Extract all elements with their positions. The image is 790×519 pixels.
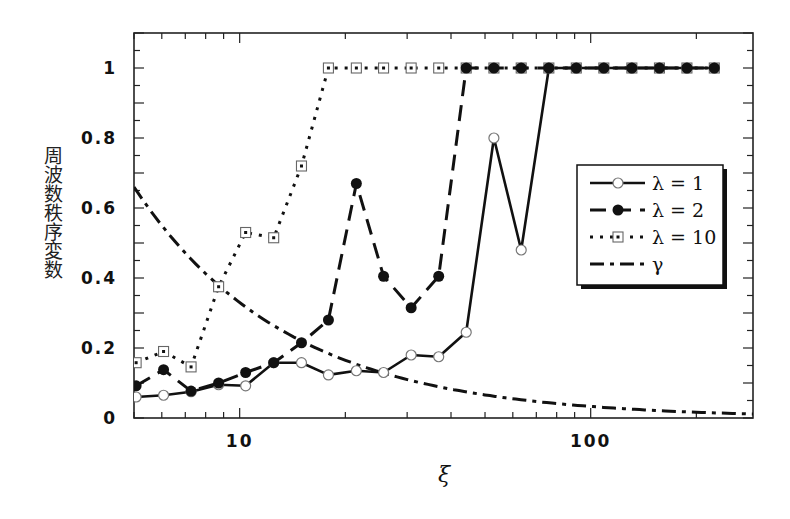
y-tick-label: 0.2 [81,338,117,358]
data-point [461,63,472,74]
data-point-dot [135,361,138,364]
y-tick-label: 1 [103,58,117,78]
data-point [461,327,471,337]
data-point-dot [272,236,275,239]
legend-label: γ [652,253,663,275]
data-point [379,368,389,378]
legend-label: λ = 10 [652,226,716,248]
data-point [598,63,609,74]
legend-marker [613,205,624,216]
data-point [240,367,251,378]
y-tick-label: 0 [103,408,117,428]
x-tick-label: 100 [570,431,612,451]
data-point [626,63,637,74]
data-point [131,392,141,402]
data-point-dot [162,350,165,353]
data-point [406,350,416,360]
data-point-dot [244,231,247,234]
data-point [571,63,582,74]
y-tick-label: 0.8 [81,128,117,148]
data-point [323,370,333,380]
data-point [351,178,362,189]
data-point [296,337,307,348]
data-point-dot [382,67,385,70]
data-point [378,271,389,282]
data-point [434,352,444,362]
data-point [213,378,224,389]
data-point [488,63,499,74]
data-point [131,380,142,391]
legend-label: λ = 1 [652,172,704,194]
data-point [516,245,526,255]
data-point [516,63,527,74]
data-point-dot [437,67,440,70]
data-point [654,63,665,74]
data-point [296,358,306,368]
legend-label: λ = 2 [652,199,704,221]
data-point [159,390,169,400]
legend-marker [613,178,623,188]
legend: λ = 1 λ = 2 λ = 10 γ [577,165,727,289]
data-point [351,366,361,376]
x-axis-title: ξ [438,462,452,487]
data-point [158,364,169,375]
data-point [406,302,417,313]
legend-marker-dot [617,236,620,239]
x-tick-label: 10 [226,431,254,451]
data-point-dot [190,365,193,368]
data-point [433,271,444,282]
data-point-dot [327,67,330,70]
data-point [186,386,197,397]
y-tick-label: 0.6 [81,198,117,218]
data-point [489,133,499,143]
y-tick-label: 0.4 [81,268,117,288]
data-point [681,63,692,74]
data-point [323,315,334,326]
data-point [543,63,554,74]
chart: 10 100 0 0.2 0.4 0.6 0.8 1 ξ 周波数秩序変数 λ =… [0,0,790,519]
data-point-dot [410,67,413,70]
y-axis-title: 周波数秩序変数 [41,146,63,279]
data-point-dot [355,67,358,70]
data-point [241,381,251,391]
data-point [709,63,720,74]
data-point-dot [217,285,220,288]
data-point [268,357,279,368]
data-point-dot [300,165,303,168]
